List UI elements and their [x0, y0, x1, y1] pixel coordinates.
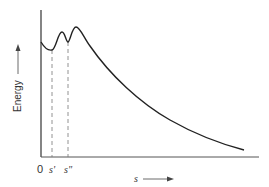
origin-label: 0	[37, 163, 43, 175]
marker-label-s-prime: s'	[49, 164, 56, 175]
y-axis-arrow-icon	[16, 44, 21, 74]
x-axis-label: s	[134, 173, 138, 184]
energy-curve	[41, 27, 244, 150]
energy-diagram: 0 s' s" s Energy	[0, 0, 269, 187]
x-axis-arrow-icon	[143, 177, 174, 182]
y-axis-label: Energy	[12, 80, 23, 112]
marker-label-s-double-prime: s"	[64, 164, 73, 175]
